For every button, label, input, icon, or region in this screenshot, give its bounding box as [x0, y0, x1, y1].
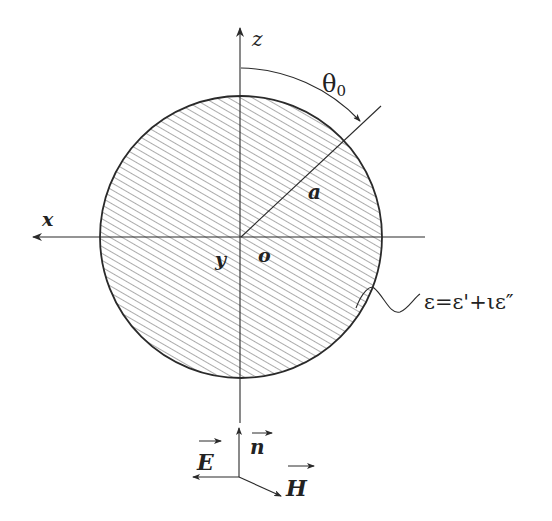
- y-axis-label: y: [214, 248, 228, 270]
- permittivity-label: ε=ε'+ιε″: [424, 290, 514, 314]
- radius-label: a: [308, 180, 321, 204]
- origin-label: o: [258, 244, 271, 266]
- h-label: H: [285, 475, 308, 501]
- x-axis-label: x: [41, 208, 54, 230]
- wave-vectors: n E H: [193, 428, 314, 501]
- z-axis-label: z: [251, 27, 263, 51]
- angle-label: θ0: [322, 70, 346, 100]
- e-label: E: [196, 449, 215, 475]
- h-vector: [239, 477, 281, 496]
- sphere-diagram: x z y o a θ0 ε=ε'+ιε″ n E H: [0, 0, 552, 521]
- n-label: n: [250, 435, 265, 459]
